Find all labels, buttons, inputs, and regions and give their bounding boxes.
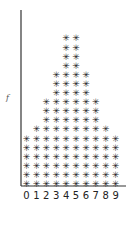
asterisk-icon: ✳ — [92, 97, 100, 107]
asterisk-icon: ✳ — [92, 124, 100, 134]
asterisk-icon: ✳ — [92, 161, 100, 171]
asterisk-icon: ✳ — [52, 79, 60, 89]
asterisk-icon: ✳ — [52, 134, 60, 144]
asterisk-icon: ✳ — [52, 88, 60, 98]
asterisk-icon: ✳ — [33, 134, 41, 144]
column-6: ✳✳✳✳✳✳✳✳✳✳✳✳✳ — [82, 70, 90, 189]
asterisk-icon: ✳ — [112, 161, 120, 171]
asterisk-icon: ✳ — [62, 97, 70, 107]
asterisk-icon: ✳ — [52, 115, 60, 125]
asterisk-icon: ✳ — [52, 143, 60, 153]
asterisk-icon: ✳ — [62, 115, 70, 125]
asterisk-icon: ✳ — [72, 143, 80, 153]
column-9: ✳✳✳✳✳✳ — [112, 134, 120, 190]
asterisk-icon: ✳ — [52, 106, 60, 116]
asterisk-icon: ✳ — [82, 161, 90, 171]
x-tick-label: 1 — [33, 190, 39, 201]
x-tick-label: 5 — [73, 190, 79, 201]
asterisk-icon: ✳ — [52, 179, 60, 189]
x-tick-label: 4 — [63, 190, 69, 201]
asterisk-icon: ✳ — [43, 170, 51, 180]
asterisk-icon: ✳ — [62, 33, 70, 43]
asterisk-icon: ✳ — [82, 106, 90, 116]
asterisk-icon: ✳ — [102, 124, 110, 134]
asterisk-icon: ✳ — [92, 134, 100, 144]
asterisk-icon: ✳ — [62, 170, 70, 180]
x-tick-label: 2 — [43, 190, 49, 201]
asterisk-icon: ✳ — [112, 170, 120, 180]
asterisk-icon: ✳ — [102, 161, 110, 171]
asterisk-icon: ✳ — [82, 143, 90, 153]
column-2: ✳✳✳✳✳✳✳✳✳✳ — [43, 97, 51, 189]
asterisk-icon: ✳ — [72, 43, 80, 53]
asterisk-icon: ✳ — [23, 170, 31, 180]
asterisk-icon: ✳ — [92, 143, 100, 153]
asterisk-icon: ✳ — [72, 97, 80, 107]
asterisk-icon: ✳ — [92, 170, 100, 180]
asterisk-icon: ✳ — [62, 106, 70, 116]
asterisk-icon: ✳ — [62, 52, 70, 62]
x-tick-label: 0 — [23, 190, 29, 201]
asterisk-icon: ✳ — [72, 88, 80, 98]
asterisk-icon: ✳ — [62, 88, 70, 98]
asterisk-icon: ✳ — [72, 70, 80, 80]
x-tick-label: 3 — [53, 190, 59, 201]
asterisk-icon: ✳ — [43, 161, 51, 171]
column-4: ✳✳✳✳✳✳✳✳✳✳✳✳✳✳✳✳✳ — [62, 33, 70, 189]
asterisk-icon: ✳ — [72, 61, 80, 71]
asterisk-icon: ✳ — [62, 43, 70, 53]
asterisk-icon: ✳ — [82, 115, 90, 125]
asterisk-icon: ✳ — [72, 170, 80, 180]
asterisk-icon: ✳ — [102, 179, 110, 189]
asterisk-icon: ✳ — [102, 143, 110, 153]
asterisk-icon: ✳ — [62, 143, 70, 153]
asterisk-icon: ✳ — [82, 152, 90, 162]
asterisk-icon: ✳ — [33, 124, 41, 134]
column-1: ✳✳✳✳✳✳✳ — [33, 124, 41, 189]
column-0: ✳✳✳✳✳✳ — [23, 134, 31, 190]
asterisk-icon: ✳ — [62, 61, 70, 71]
asterisk-icon: ✳ — [82, 70, 90, 80]
asterisk-icon: ✳ — [52, 161, 60, 171]
asterisk-icon: ✳ — [92, 115, 100, 125]
asterisk-icon: ✳ — [43, 115, 51, 125]
asterisk-icon: ✳ — [62, 134, 70, 144]
asterisk-icon: ✳ — [52, 70, 60, 80]
asterisk-icon: ✳ — [23, 179, 31, 189]
asterisk-icon: ✳ — [82, 97, 90, 107]
x-tick-label: 8 — [103, 190, 109, 201]
asterisk-icon: ✳ — [43, 97, 51, 107]
x-tick-label: 7 — [93, 190, 99, 201]
asterisk-icon: ✳ — [62, 152, 70, 162]
asterisk-icon: ✳ — [82, 134, 90, 144]
asterisk-icon: ✳ — [72, 106, 80, 116]
asterisk-icon: ✳ — [43, 106, 51, 116]
x-tick-label: 6 — [83, 190, 89, 201]
asterisk-icon: ✳ — [72, 115, 80, 125]
asterisk-icon: ✳ — [82, 170, 90, 180]
y-axis-label: f — [5, 93, 11, 102]
asterisk-icon: ✳ — [72, 134, 80, 144]
asterisk-icon: ✳ — [102, 152, 110, 162]
asterisk-icon: ✳ — [72, 79, 80, 89]
asterisk-icon: ✳ — [82, 179, 90, 189]
asterisk-icon: ✳ — [72, 33, 80, 43]
asterisk-icon: ✳ — [43, 152, 51, 162]
x-tick-labels: 0123456789 — [23, 190, 118, 201]
asterisk-icon: ✳ — [82, 79, 90, 89]
x-tick-label: 9 — [112, 190, 118, 201]
asterisk-icon: ✳ — [102, 134, 110, 144]
asterisk-icon: ✳ — [92, 152, 100, 162]
asterisk-icon: ✳ — [92, 179, 100, 189]
asterisk-icon: ✳ — [33, 161, 41, 171]
asterisk-icon: ✳ — [112, 152, 120, 162]
asterisk-icon: ✳ — [72, 124, 80, 134]
asterisk-icon: ✳ — [23, 134, 31, 144]
asterisk-icon: ✳ — [43, 134, 51, 144]
asterisk-icon: ✳ — [33, 152, 41, 162]
asterisk-icon: ✳ — [112, 179, 120, 189]
asterisk-icon: ✳ — [52, 97, 60, 107]
asterisk-icon: ✳ — [52, 124, 60, 134]
asterisk-icon: ✳ — [62, 179, 70, 189]
asterisk-icon: ✳ — [72, 52, 80, 62]
